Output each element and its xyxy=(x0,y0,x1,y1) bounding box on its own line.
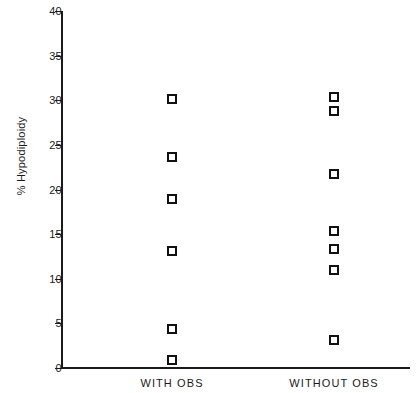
data-point-marker xyxy=(329,226,339,236)
data-point-marker xyxy=(329,335,339,345)
y-tick-mark xyxy=(55,323,62,324)
x-category-label: WITHOUT OBS xyxy=(289,377,379,389)
x-axis-line xyxy=(61,367,410,369)
y-tick-mark xyxy=(55,145,62,146)
data-point-marker xyxy=(167,194,177,204)
data-point-marker xyxy=(329,244,339,254)
data-point-marker xyxy=(329,106,339,116)
y-tick-mark xyxy=(55,11,62,12)
y-axis-title: % Hypodiploidy xyxy=(15,91,27,221)
data-point-marker xyxy=(167,324,177,334)
x-category-label: WITH OBS xyxy=(140,377,203,389)
data-point-marker xyxy=(329,265,339,275)
data-point-marker xyxy=(167,152,177,162)
data-point-marker xyxy=(329,92,339,102)
y-tick-mark xyxy=(55,100,62,101)
data-point-marker xyxy=(329,169,339,179)
y-tick-mark xyxy=(55,190,62,191)
y-tick-mark xyxy=(55,279,62,280)
data-point-marker xyxy=(167,94,177,104)
y-tick-mark xyxy=(55,56,62,57)
data-point-marker xyxy=(167,246,177,256)
y-tick-mark xyxy=(55,368,62,369)
data-point-marker xyxy=(167,355,177,365)
y-tick-mark xyxy=(55,234,62,235)
scatter-plot: % Hypodiploidy 0510152025303540 WITH OBS… xyxy=(0,0,420,393)
